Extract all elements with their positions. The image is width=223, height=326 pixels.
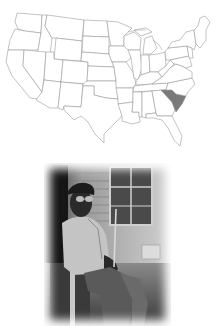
state-wisconsin xyxy=(124,32,141,50)
portrait-photo-svg xyxy=(44,163,171,326)
portrait-photo: Elderly man in cap and glasses seated on… xyxy=(44,163,171,326)
state-indiana xyxy=(141,55,150,75)
state-south-dakota xyxy=(82,36,109,54)
us-map: South Carolina xyxy=(0,0,223,150)
us-map-svg xyxy=(0,0,223,150)
state-oregon xyxy=(8,29,41,50)
state-north-dakota xyxy=(83,20,109,37)
state-wyoming xyxy=(54,38,82,61)
state-colorado xyxy=(61,60,88,84)
state-new-mexico xyxy=(58,82,83,110)
state-kansas xyxy=(87,66,116,81)
state-arkansas xyxy=(116,88,133,104)
state-florida xyxy=(146,113,182,146)
state-new-england xyxy=(194,16,210,48)
